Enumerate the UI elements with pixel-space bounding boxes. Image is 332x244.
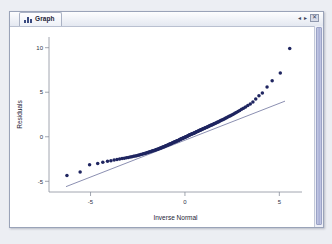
chart-svg: -50510-505Inverse NormalResiduals [11,27,314,226]
scrollbar-thumb[interactable] [316,27,322,225]
data-point [88,163,92,167]
data-point [270,79,274,83]
x-tick-label: 0 [183,199,187,205]
data-point [78,170,82,174]
data-point [106,160,110,164]
window-titlebar: Graph ◂ ▸ ✕ [10,12,323,27]
data-point [254,97,257,101]
data-point [265,85,269,89]
prev-icon[interactable]: ◂ [298,15,301,21]
y-axis-title: Residuals [16,99,23,128]
data-point [96,162,100,166]
y-tick-label: 10 [36,45,43,51]
plot-canvas: -50510-505Inverse NormalResiduals [11,27,314,226]
y-tick-label: -5 [38,179,44,185]
y-tick-label: 0 [40,134,44,140]
tab-graph[interactable]: Graph [19,12,62,26]
data-point [251,100,255,104]
x-axis-title: Inverse Normal [153,214,198,221]
reference-line [66,101,285,187]
tab-graph-label: Graph [35,16,55,23]
data-point [288,47,292,51]
data-point [65,174,69,178]
graph-window: Graph ◂ ▸ ✕ -50510-505Inverse NormalResi… [9,11,324,228]
y-tick-label: 5 [40,89,44,95]
titlebar-controls: ◂ ▸ ✕ [298,14,319,22]
data-point [261,91,265,95]
data-point [279,71,283,75]
vertical-scrollbar[interactable] [314,26,323,227]
data-point [257,94,261,98]
x-tick-label: 5 [278,199,282,205]
x-tick-label: -5 [88,199,94,205]
data-point [109,159,113,163]
screen: Graph ◂ ▸ ✕ -50510-505Inverse NormalResi… [0,0,332,244]
next-icon[interactable]: ▸ [304,15,307,21]
close-icon[interactable]: ✕ [310,14,319,22]
qq-plot: -50510-505Inverse NormalResiduals [11,27,314,226]
graph-icon [24,16,32,23]
data-point [101,160,105,164]
